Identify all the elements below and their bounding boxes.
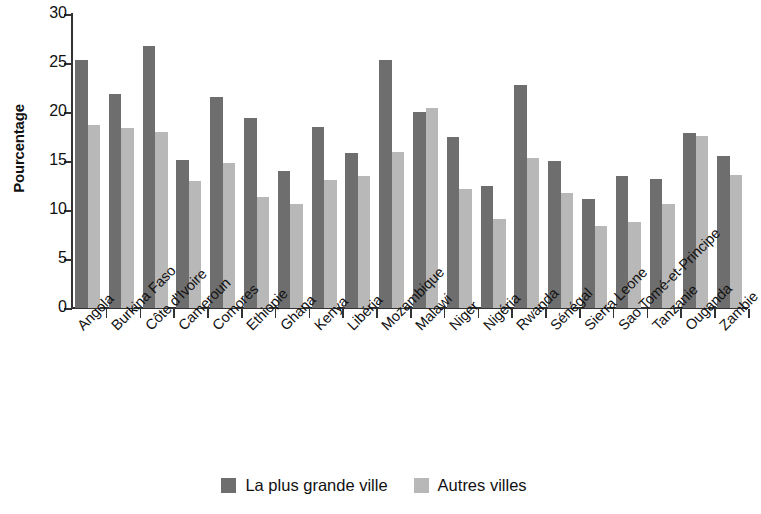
bar-group bbox=[379, 14, 404, 308]
bar-secondary bbox=[696, 136, 709, 308]
bar-group bbox=[75, 14, 100, 308]
bar-group bbox=[244, 14, 269, 308]
bar-primary bbox=[481, 186, 494, 308]
y-axis-tick-label: 0 bbox=[58, 297, 67, 317]
legend-item: La plus grande ville bbox=[221, 476, 387, 495]
bar-primary bbox=[514, 85, 527, 308]
legend-label: La plus grande ville bbox=[245, 476, 387, 495]
bar-group bbox=[143, 14, 168, 308]
bar-primary bbox=[345, 153, 358, 308]
bar-secondary bbox=[392, 152, 405, 308]
legend-item: Autres villes bbox=[414, 476, 527, 495]
bar-secondary bbox=[459, 189, 472, 308]
bar-group bbox=[616, 14, 641, 308]
y-axis-tick-label: 25 bbox=[49, 52, 67, 72]
bar-secondary bbox=[121, 128, 134, 308]
y-axis-tick-label: 15 bbox=[49, 150, 67, 170]
plot-area: 051015202530 bbox=[72, 14, 748, 308]
bar-primary bbox=[244, 118, 257, 308]
bar-secondary bbox=[88, 125, 101, 308]
legend-swatch bbox=[414, 478, 429, 493]
bar-secondary bbox=[290, 204, 303, 308]
bar-primary bbox=[379, 60, 392, 308]
bar-secondary bbox=[595, 226, 608, 308]
bar-group bbox=[650, 14, 675, 308]
bar-secondary bbox=[561, 193, 574, 308]
bar-primary bbox=[143, 46, 156, 308]
bar-group bbox=[345, 14, 370, 308]
bar-group bbox=[109, 14, 134, 308]
y-axis-tick-label: 30 bbox=[49, 3, 67, 23]
bar-group bbox=[176, 14, 201, 308]
y-axis-tick-label: 20 bbox=[49, 101, 67, 121]
bar-group bbox=[481, 14, 506, 308]
bar-secondary bbox=[358, 176, 371, 308]
bar-group bbox=[548, 14, 573, 308]
legend-swatch bbox=[221, 478, 236, 493]
bar-secondary bbox=[324, 180, 337, 308]
chart-legend: La plus grande villeAutres villes bbox=[0, 476, 748, 495]
bar-group bbox=[447, 14, 472, 308]
bar-secondary bbox=[493, 219, 506, 308]
bar-primary bbox=[109, 94, 122, 308]
bar-primary bbox=[75, 60, 88, 308]
y-axis-tick-label: 10 bbox=[49, 199, 67, 219]
bar-primary bbox=[447, 137, 460, 308]
bar-group bbox=[210, 14, 235, 308]
bar-group bbox=[582, 14, 607, 308]
bar-secondary bbox=[527, 158, 540, 308]
y-axis-title: Pourcentage bbox=[10, 69, 27, 229]
bar-group bbox=[278, 14, 303, 308]
legend-label: Autres villes bbox=[438, 476, 527, 495]
bar-group bbox=[514, 14, 539, 308]
bar-group bbox=[312, 14, 337, 308]
y-axis-tick-label: 5 bbox=[58, 248, 67, 268]
bar-group bbox=[717, 14, 742, 308]
bar-primary bbox=[312, 127, 325, 308]
